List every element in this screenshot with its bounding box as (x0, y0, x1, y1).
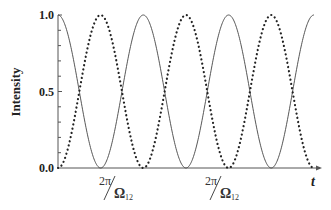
y-tick-label-1: 1.0 (39, 8, 54, 22)
y-ticks (58, 15, 62, 153)
chart: 1.0 0.5 0.0 Intensity 2π Ω 12 2π Ω 12 t (0, 0, 331, 210)
period-denominator: Ω (220, 186, 231, 201)
period-denominator: Ω (114, 186, 125, 201)
y-axis-title: Intensity (8, 67, 23, 117)
period-subscript: 12 (125, 193, 133, 202)
x-axis-title: t (311, 174, 316, 189)
y-tick-label-05: 0.5 (39, 85, 54, 99)
period-numerator: 2π (99, 174, 111, 188)
period-numerator: 2π (205, 174, 217, 188)
x-period-label-2: 2π Ω 12 (205, 174, 239, 202)
y-tick-label-0: 0.0 (39, 161, 54, 175)
solid-series-line (58, 15, 314, 168)
x-axis-arrow-icon (316, 166, 322, 171)
period-subscript: 12 (231, 193, 239, 202)
x-period-label-1: 2π Ω 12 (99, 174, 133, 202)
dotted-series-line (58, 15, 314, 168)
